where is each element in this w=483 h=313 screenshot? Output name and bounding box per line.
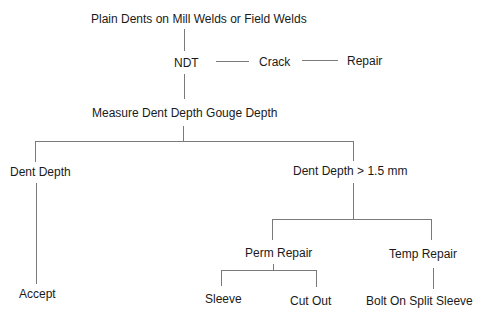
- node-dent-depth-gt: Dent Depth > 1.5 mm: [293, 164, 407, 178]
- connector-bar-perm-repair: [272, 219, 273, 240]
- node-root: Plain Dents on Mill Welds or Field Welds: [91, 12, 307, 26]
- node-perm-repair: Perm Repair: [245, 246, 312, 260]
- connector-repair-bar: [272, 219, 432, 220]
- node-crack: Crack: [259, 55, 290, 69]
- node-dent-depth: Dent Depth: [10, 165, 71, 179]
- node-temp-repair: Temp Repair: [389, 247, 457, 261]
- connector-ndt-crack: [216, 61, 249, 62]
- connector-dent-depth-accept: [36, 183, 37, 284]
- node-bolt-on-split-sleeve: Bolt On Split Sleeve: [366, 294, 473, 308]
- node-ndt: NDT: [174, 56, 199, 70]
- connector-measure-stub: [183, 126, 184, 141]
- connector-temp-bolt-on: [433, 268, 434, 289]
- connector-perm-repair-bar: [221, 270, 317, 271]
- node-cut-out: Cut Out: [290, 294, 331, 308]
- node-sleeve: Sleeve: [205, 292, 242, 306]
- connector-crack-repair: [302, 60, 338, 61]
- connector-measure-bar: [35, 141, 354, 142]
- node-measure: Measure Dent Depth Gouge Depth: [92, 106, 277, 120]
- connector-bar-temp-repair: [431, 219, 432, 240]
- connector-bar-dent-depth-gt: [353, 141, 354, 161]
- connector-root-ndt: [184, 29, 185, 51]
- connector-bar-dent-depth: [35, 141, 36, 162]
- node-accept: Accept: [19, 287, 56, 301]
- connector-ndt-measure: [184, 74, 185, 99]
- connector-dent-depth-gt-stub: [353, 183, 354, 219]
- connector-perm-cut-out: [316, 270, 317, 287]
- connector-perm-sleeve: [221, 270, 222, 286]
- node-repair: Repair: [347, 54, 382, 68]
